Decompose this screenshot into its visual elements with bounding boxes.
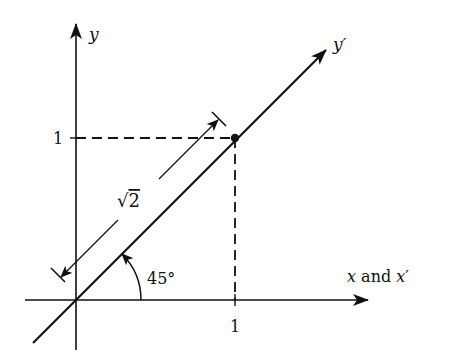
y-axis-label: y [88,24,99,44]
sqrt-symbol: √ [117,190,129,211]
angle-label: 45° [147,269,175,288]
point-1-1 [231,134,239,142]
x-label-prime-mark: ′ [405,267,409,286]
y-prime-axis [33,50,326,343]
dimension-label: √2 [117,190,140,211]
x-label-and: and [356,267,396,286]
y-prime-axis-label: y′ [332,34,347,54]
y-tick-label: 1 [53,129,63,148]
y-prime-mark: ′ [343,34,347,54]
x-label-x: x [347,267,356,286]
angle-arc [122,254,141,300]
rotated-axes-diagram: y x and x′ y′ 1 1 √2 45° [0,0,460,356]
sqrt-value: 2 [128,190,139,211]
dimension-line-lower [61,220,118,277]
x-label-xprime: x [396,267,405,286]
x-tick-label: 1 [230,317,240,336]
y-prime-letter: y [332,34,343,54]
dimension-line-upper [159,120,218,179]
x-axis-label: x and x′ [347,267,409,286]
